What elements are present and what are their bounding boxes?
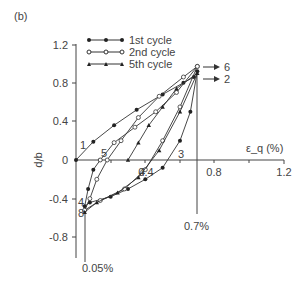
x-axis-label: ε_q (%) bbox=[246, 142, 283, 154]
data-point bbox=[178, 139, 182, 143]
data-point bbox=[136, 116, 140, 120]
arrow-6 bbox=[203, 64, 220, 70]
data-point bbox=[112, 123, 116, 127]
legend-label: 5th cycle bbox=[129, 58, 172, 70]
legend: 1st cycle 2nd cycle 5th cycle bbox=[87, 34, 175, 70]
data-point bbox=[119, 139, 123, 143]
legend-item-5th: 5th cycle bbox=[87, 58, 172, 70]
y-tick: -0.8 bbox=[49, 231, 68, 243]
y-tick: 1.2 bbox=[53, 39, 68, 51]
y-axis: 1.2 0.8 0.4 0 -0.4 -0.8 q/p bbox=[34, 39, 76, 258]
legend-item-2nd: 2nd cycle bbox=[87, 46, 175, 58]
chart: (b) 1.2 0.8 0.4 0 -0.4 -0.8 q/p 0.4 0.8 … bbox=[0, 0, 306, 281]
legend-label: 1st cycle bbox=[129, 34, 172, 46]
data-point bbox=[181, 75, 185, 79]
annotation-1: 1 bbox=[80, 139, 86, 151]
data-point bbox=[188, 110, 192, 114]
panel-label: (b) bbox=[14, 10, 27, 22]
annotation-0.05pct: 0.05% bbox=[82, 262, 113, 274]
x-tick: 0.8 bbox=[206, 166, 221, 178]
series-layer bbox=[74, 64, 200, 214]
data-point bbox=[135, 108, 139, 112]
y-tick: 0 bbox=[62, 154, 68, 166]
data-point bbox=[136, 140, 140, 144]
data-point bbox=[154, 110, 158, 114]
annotation-8: 8 bbox=[78, 207, 84, 219]
data-point bbox=[157, 94, 161, 98]
data-point bbox=[91, 168, 95, 172]
data-point bbox=[133, 125, 137, 129]
annotation-0.7pct: 0.7% bbox=[184, 220, 209, 232]
annotation-3: 3 bbox=[178, 148, 184, 160]
data-point bbox=[91, 140, 95, 144]
x-tick: 1.2 bbox=[276, 166, 291, 178]
data-point bbox=[86, 187, 90, 191]
y-tick: 0.4 bbox=[53, 115, 68, 127]
data-point bbox=[195, 64, 199, 68]
arrow-2 bbox=[203, 76, 220, 82]
legend-item-1st: 1st cycle bbox=[87, 34, 172, 46]
annotation-4a: 4 bbox=[139, 166, 145, 178]
y-tick: -0.4 bbox=[49, 193, 68, 205]
annotation-2: 2 bbox=[224, 73, 230, 85]
y-axis-label: q/p bbox=[34, 152, 46, 167]
y-tick: 0.8 bbox=[53, 77, 68, 89]
annotation-6: 6 bbox=[224, 61, 230, 73]
data-point bbox=[74, 158, 78, 162]
data-point bbox=[95, 177, 99, 181]
data-point bbox=[88, 197, 92, 201]
data-point bbox=[112, 141, 116, 145]
legend-label: 2nd cycle bbox=[129, 46, 175, 58]
annotation-5: 5 bbox=[101, 147, 107, 159]
data-point bbox=[161, 166, 165, 170]
